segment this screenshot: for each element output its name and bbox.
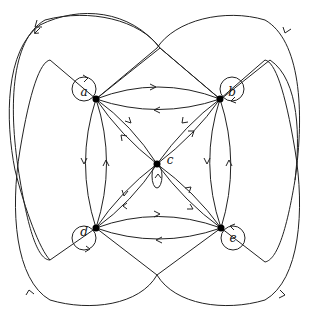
node-label-e: e [229, 231, 236, 245]
nodes [93, 96, 225, 232]
edges-a-b [96, 84, 220, 113]
node-e [218, 225, 225, 232]
node-d [93, 225, 100, 232]
node-b [217, 96, 224, 103]
node-label-a: a [80, 85, 87, 99]
node-label-c: c [167, 153, 174, 167]
outer-arrows [26, 20, 291, 298]
node-label-b: b [228, 85, 236, 99]
node-a [93, 96, 100, 103]
node-c [154, 161, 161, 168]
edges-d-e [96, 211, 221, 243]
edges-b-e [204, 99, 232, 228]
graph-diagram: a b c d e [0, 0, 315, 322]
edges-a-d [81, 99, 109, 228]
node-label-d: d [80, 225, 88, 239]
